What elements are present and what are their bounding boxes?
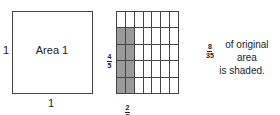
result-denominator: 35 <box>206 52 214 59</box>
grid-cell <box>126 45 135 61</box>
width-fraction: 2 7 <box>125 96 130 115</box>
grid-cell <box>170 78 179 94</box>
result-note: 8 35 of original area is shaded. <box>206 38 278 77</box>
grid-cell <box>144 61 153 77</box>
note-line2: is shaded. <box>206 64 278 77</box>
grid-cell <box>170 12 179 28</box>
bottom-side-label: 1 <box>48 97 54 109</box>
grid-cell <box>152 61 161 77</box>
grid-cell <box>152 45 161 61</box>
grid-cell <box>152 28 161 44</box>
grid-cell <box>152 12 161 28</box>
grid-cell <box>161 12 170 28</box>
grid-cell <box>135 78 144 94</box>
grid-cell <box>161 28 170 44</box>
grid-cell <box>144 28 153 44</box>
grid-cell <box>135 61 144 77</box>
grid-cell <box>117 78 126 94</box>
result-numerator: 8 <box>208 43 212 50</box>
width-numerator: 2 <box>126 104 130 111</box>
result-fraction: 8 35 <box>206 43 214 59</box>
grid-cell <box>117 12 126 28</box>
height-fraction: 4 5 <box>107 45 112 69</box>
grid-cell <box>144 12 153 28</box>
grid-cell <box>161 61 170 77</box>
height-numerator: 4 <box>108 53 112 60</box>
grid-cell <box>170 45 179 61</box>
left-side-label: 1 <box>3 44 9 56</box>
grid-cell <box>144 45 153 61</box>
grid-cell <box>135 45 144 61</box>
grid-cell <box>117 28 126 44</box>
grid-cell <box>161 45 170 61</box>
grid-cell <box>126 61 135 77</box>
grid-cell <box>135 28 144 44</box>
height-denominator: 5 <box>108 62 112 69</box>
grid-cell <box>126 78 135 94</box>
grid-cell <box>144 78 153 94</box>
grid-cell <box>126 28 135 44</box>
grid-cell <box>135 12 144 28</box>
width-denominator: 7 <box>126 113 130 115</box>
fraction-grid <box>116 11 179 94</box>
grid-cell <box>161 78 170 94</box>
grid-cell <box>170 61 179 77</box>
grid-cell <box>117 61 126 77</box>
grid-cell <box>117 45 126 61</box>
area-label: Area 1 <box>12 44 92 56</box>
note-line1: of original area <box>216 38 278 64</box>
grid-cell <box>170 28 179 44</box>
grid-cell <box>152 78 161 94</box>
grid-cell <box>126 12 135 28</box>
